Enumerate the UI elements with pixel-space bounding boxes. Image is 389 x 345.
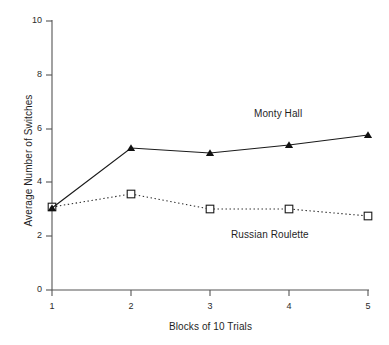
series-monty-hall-line <box>52 135 368 208</box>
x-tick-label-4: 4 <box>279 302 299 311</box>
y-tick-label-10: 10 <box>18 16 42 25</box>
x-axis-title: Blocks of 10 Trials <box>52 321 369 332</box>
marker-open-square <box>285 205 293 213</box>
x-tick-label-1: 1 <box>42 302 62 311</box>
y-tick-marks <box>46 21 52 290</box>
marker-open-square <box>364 212 372 220</box>
series-label-russian-roulette: Russian Roulette <box>231 229 309 240</box>
y-tick-label-0: 0 <box>18 285 42 294</box>
y-axis-title: Average Number of Switches <box>23 61 34 261</box>
series-label-monty-hall: Monty Hall <box>254 108 302 119</box>
series-monty-hall <box>48 131 372 211</box>
marker-open-square <box>127 190 135 198</box>
marker-open-square <box>206 205 214 213</box>
x-tick-marks <box>52 290 368 296</box>
x-tick-label-3: 3 <box>200 302 220 311</box>
marker-filled-triangle <box>364 131 372 138</box>
line-chart-figure: 10 8 6 4 2 0 1 2 3 4 5 Average Number of… <box>0 0 389 345</box>
series-russian-roulette <box>48 190 372 220</box>
plot-canvas <box>0 0 389 345</box>
x-tick-label-5: 5 <box>358 302 378 311</box>
x-tick-label-2: 2 <box>121 302 141 311</box>
